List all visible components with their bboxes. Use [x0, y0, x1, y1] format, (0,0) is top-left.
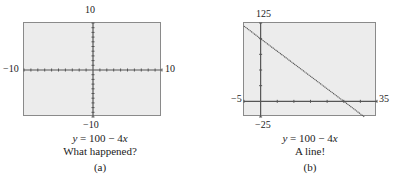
y-min-label: −25: [255, 120, 271, 130]
y-min-label: −10: [83, 120, 99, 130]
plot-svg-b: [244, 23, 377, 117]
equation-a: y = 100 − 4x: [0, 132, 200, 144]
panel-b: 125 −5 35 −25 y = 100 − 4x A line! (b): [195, 0, 395, 180]
caption-a: (a): [0, 161, 200, 173]
panel-a: 10 −10 10 −10 y = 100 − 4x What happened…: [0, 0, 200, 180]
eq-var-x: x: [123, 132, 128, 144]
eq-body: = 100 − 4: [287, 132, 332, 144]
plot-area-a: [23, 22, 161, 116]
caption-b: (b): [210, 161, 395, 173]
function-line: [244, 26, 365, 117]
y-max-label: 125: [256, 9, 271, 19]
x-min-label: −10: [3, 64, 19, 74]
y-max-label: 10: [85, 5, 95, 15]
plot-svg-a: [24, 23, 162, 117]
comment-a: What happened?: [0, 145, 200, 157]
x-min-label: −5: [231, 94, 242, 104]
plot-area-b: [243, 22, 376, 116]
eq-body: = 100 − 4: [77, 132, 122, 144]
eq-var-x: x: [333, 132, 338, 144]
x-max-label: 35: [379, 94, 389, 104]
x-max-label: 10: [165, 64, 175, 74]
comment-b: A line!: [210, 145, 395, 157]
equation-b: y = 100 − 4x: [210, 132, 395, 144]
